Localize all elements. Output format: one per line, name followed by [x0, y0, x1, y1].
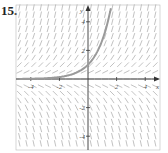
svg-text:2: 2	[115, 83, 119, 91]
svg-text:4: 4	[82, 18, 86, 26]
slope-field-plot: -4-224-4-224xy	[0, 0, 168, 153]
svg-text:-4: -4	[28, 83, 34, 91]
svg-text:4: 4	[143, 83, 147, 91]
svg-text:-2: -2	[56, 83, 62, 91]
svg-text:2: 2	[82, 47, 86, 55]
svg-text:-4: -4	[79, 133, 85, 141]
svg-text:-2: -2	[79, 104, 85, 112]
svg-text:x: x	[155, 83, 160, 91]
